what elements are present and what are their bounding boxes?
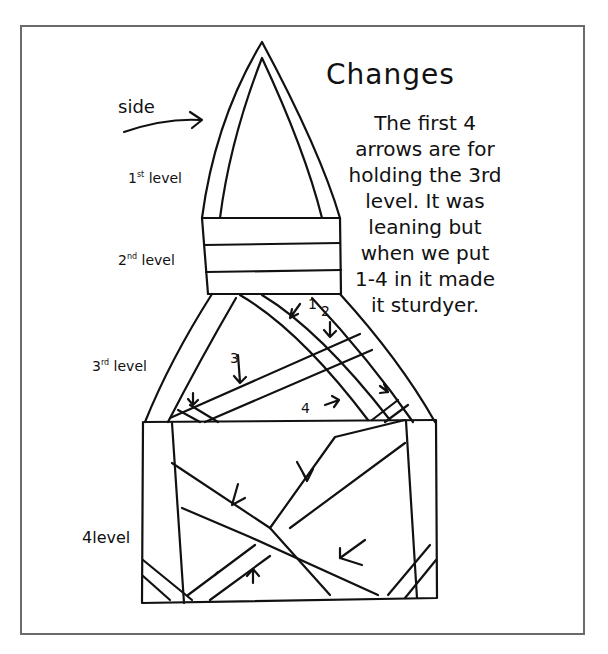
changes-title: Changes: [326, 58, 455, 91]
level-4-label: 4level: [82, 528, 130, 547]
note-line: level. It was: [330, 188, 520, 214]
change-notes: The first 4 arrows are for holding the 3…: [330, 110, 520, 318]
arrow-number-3: 3: [230, 350, 239, 366]
level-4-arrows: [215, 462, 365, 583]
arrow-number-2: 2: [321, 303, 330, 319]
note-line: arrows are for: [330, 136, 520, 162]
side-label: side: [118, 96, 155, 117]
level-2-label: 2nd level: [118, 252, 175, 268]
level-4-box: [142, 420, 437, 603]
level-1-label: 1st level: [128, 170, 182, 186]
level-1-triangle: [202, 42, 340, 218]
note-line: holding the 3rd: [330, 162, 520, 188]
arrow-number-4: 4: [301, 400, 310, 416]
note-line: it sturdyer.: [330, 292, 520, 318]
level-3-label: 3rd level: [92, 358, 147, 374]
note-line: leaning but: [330, 214, 520, 240]
note-line: when we put: [330, 240, 520, 266]
note-line: 1-4 in it made: [330, 266, 520, 292]
level-2-band: [202, 218, 341, 294]
arrow-number-1: 1: [308, 296, 317, 312]
tower-sketch: [0, 0, 608, 654]
note-line: The first 4: [330, 110, 520, 136]
